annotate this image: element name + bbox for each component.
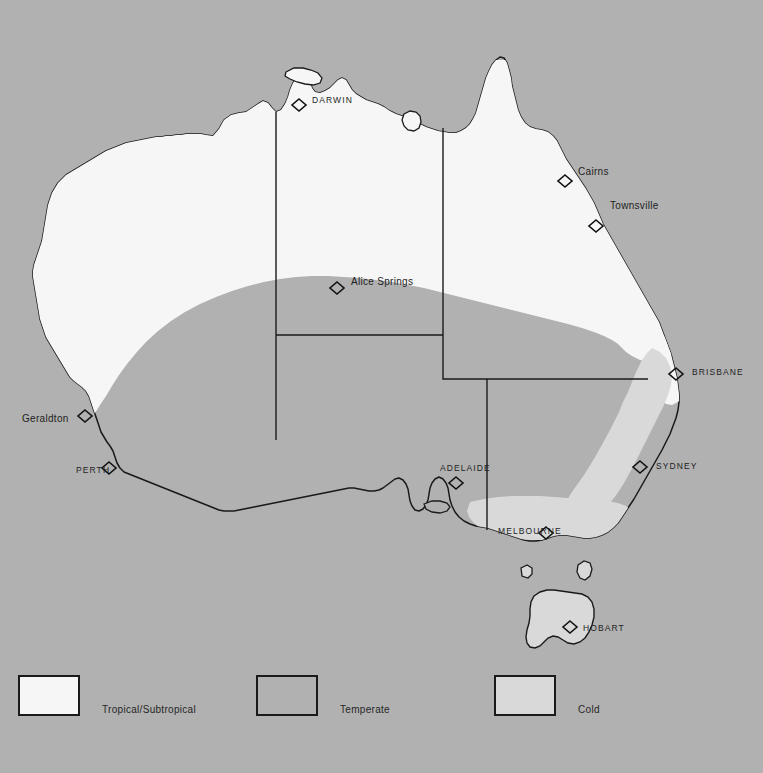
tasmania	[526, 590, 594, 648]
city-label-alice-springs: Alice Springs	[351, 277, 413, 287]
legend-swatch-temperate	[256, 675, 318, 716]
map-page: DARWIN Cairns Townsville Alice Springs B…	[0, 0, 763, 773]
city-label-cairns: Cairns	[578, 167, 609, 177]
legend-item-temperate: Temperate	[256, 675, 390, 716]
map-legend: Tropical/Subtropical Temperate Cold	[0, 660, 763, 773]
legend-swatch-cold	[494, 675, 556, 716]
legend-item-tropical: Tropical/Subtropical	[18, 675, 196, 716]
king-island	[521, 565, 532, 578]
city-label-geraldton: Geraldton	[22, 414, 69, 424]
australia-climate-map	[0, 0, 763, 773]
city-label-melbourne: MELBOURNE	[498, 526, 562, 536]
city-label-perth: PERTH	[76, 465, 110, 475]
legend-label-temperate: Temperate	[340, 704, 390, 715]
city-label-sydney: SYDNEY	[656, 461, 698, 471]
legend-label-tropical: Tropical/Subtropical	[102, 704, 196, 715]
city-label-adelaide: ADELAIDE	[440, 463, 491, 473]
city-marker-geraldton	[78, 410, 92, 422]
kangaroo-island	[424, 501, 450, 513]
legend-label-cold: Cold	[578, 704, 600, 715]
city-label-brisbane: BRISBANE	[692, 367, 744, 377]
city-label-darwin: DARWIN	[312, 95, 353, 105]
legend-item-cold: Cold	[494, 675, 600, 716]
city-label-hobart: HOBART	[583, 623, 625, 633]
melville-island	[285, 68, 322, 85]
city-label-townsville: Townsville	[610, 201, 659, 211]
flinders-island	[577, 561, 592, 580]
legend-swatch-tropical	[18, 675, 80, 716]
